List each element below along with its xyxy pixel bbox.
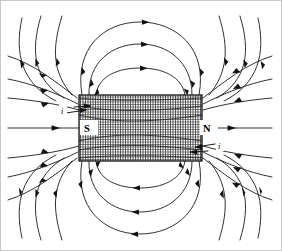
flux-arrow — [141, 42, 149, 47]
flux-arrow — [39, 73, 47, 78]
flux-arrow — [224, 58, 228, 66]
flux-arrow — [81, 67, 85, 75]
flux-line — [217, 16, 246, 98]
field-line-canvas: S N i i — [0, 0, 282, 251]
flux-arrow — [233, 84, 241, 89]
flux-arrow — [233, 167, 241, 172]
flux-arrow — [132, 209, 140, 214]
flux-line — [35, 158, 64, 240]
magnetic-field-diagram: S N i i — [0, 0, 282, 251]
flux-arrow — [179, 161, 184, 168]
flux-arrow — [261, 61, 266, 69]
flux-arrow — [131, 232, 139, 237]
flux-line — [81, 161, 201, 234]
flux-arrow — [78, 181, 82, 189]
flux-line — [203, 158, 272, 200]
flux-arrow — [140, 66, 148, 71]
flux-arrow — [232, 68, 240, 74]
south-pole-label: S — [84, 123, 90, 134]
flux-arrow — [41, 148, 49, 153]
flux-line — [96, 68, 185, 95]
flux-arrow — [94, 88, 99, 95]
flux-arrow — [220, 190, 224, 198]
flux-arrow — [195, 180, 200, 188]
flux-line — [96, 161, 185, 188]
flux-arrow — [53, 190, 57, 198]
flux-arrow — [228, 125, 236, 131]
flux-arrow — [234, 97, 242, 102]
flux-arrow — [133, 185, 141, 190]
flux-arrow — [56, 58, 60, 66]
flux-line — [35, 16, 64, 98]
flux-arrow — [234, 154, 242, 159]
north-pole-label: N — [203, 123, 211, 134]
flux-line — [81, 22, 201, 95]
flux-arrow — [41, 102, 49, 107]
flux-arrow — [259, 187, 262, 195]
flux-line — [217, 158, 246, 240]
flux-arrow — [142, 19, 150, 24]
flux-arrow — [232, 183, 240, 189]
flux-arrow — [52, 125, 60, 131]
flux-arrow — [39, 178, 47, 183]
flux-line — [89, 161, 192, 212]
flux-arrow — [185, 168, 190, 176]
